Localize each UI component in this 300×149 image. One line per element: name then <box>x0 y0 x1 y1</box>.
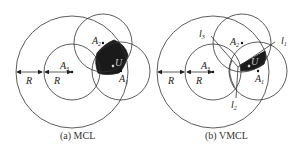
label-a1: A1 <box>254 73 264 85</box>
label-r-outer: R <box>167 75 174 86</box>
label-u: U <box>115 57 123 68</box>
caption-b: (b) VMCL <box>205 130 248 142</box>
label-a2: A2 <box>91 35 101 47</box>
label-l3: l3 <box>199 28 205 40</box>
caption-a: (a) MCL <box>60 130 95 142</box>
label-a3: A3 <box>200 60 210 72</box>
panel-b-vmcl <box>157 14 287 128</box>
diagram-canvas: A3 A2 A1 U R R (a) MCL A3 A2 A1 U l1 l2 … <box>0 0 300 149</box>
label-r-inner: R <box>195 75 202 86</box>
label-a2: A2 <box>229 36 239 48</box>
label-u: U <box>251 56 259 67</box>
label-a1: A1 <box>118 73 128 85</box>
label-l2: l2 <box>231 99 237 111</box>
label-l1: l1 <box>281 35 287 47</box>
label-r-outer: R <box>25 75 32 86</box>
label-a3: A3 <box>59 60 69 72</box>
label-r-inner: R <box>53 75 60 86</box>
panel-a-mcl <box>16 14 150 128</box>
